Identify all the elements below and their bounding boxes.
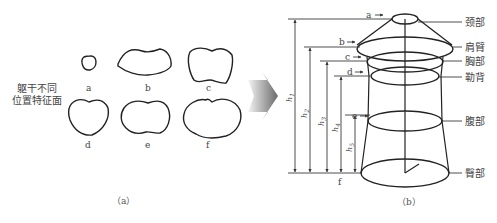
panel-b [288, 14, 462, 187]
body-part-labels: 颈部 肩臂 胸部 勒背 腹部 臀部 [465, 16, 485, 179]
caption-a: （a） [112, 196, 135, 206]
height-label-h5: h5 [345, 143, 355, 152]
body-part-shoulder-arm: 肩臂 [465, 41, 485, 53]
shape-label-e: e [145, 140, 150, 150]
cross-section-c [188, 48, 232, 83]
side-label-line2: 位置特征面 [12, 94, 62, 106]
body-part-back: 勒背 [465, 71, 485, 83]
level-marker-b: b [339, 37, 345, 47]
cross-section-a [82, 56, 96, 70]
cross-section-d [69, 100, 109, 135]
level-marker-f: f [338, 177, 342, 187]
level-marker-c: c [345, 52, 350, 62]
height-labels: h1 h2 h3 h4 h5 [285, 93, 355, 152]
shape-label-a: a [86, 83, 92, 93]
cross-section-b [118, 49, 171, 75]
level-marker-e: e [352, 111, 357, 121]
shape-label-b: b [145, 83, 151, 93]
height-label-h4: h4 [331, 123, 341, 132]
height-label-h2: h2 [300, 109, 310, 118]
level-marker-d: d [347, 67, 353, 77]
shape-label-f: f [206, 140, 210, 150]
body-part-chest: 胸部 [465, 55, 485, 67]
level-marker-a: a [366, 10, 372, 20]
height-label-h1: h1 [285, 93, 295, 102]
height-label-h3: h3 [317, 117, 327, 126]
cross-section-f [184, 99, 241, 138]
caption-b: （b） [397, 197, 421, 207]
cross-section-e [121, 101, 169, 133]
body-part-neck: 颈部 [465, 16, 485, 28]
body-part-hip: 臀部 [465, 167, 485, 179]
shape-label-d: d [85, 140, 91, 150]
body-part-abdomen: 腹部 [465, 115, 485, 127]
right-arrow-icon [248, 72, 278, 120]
panel-a: 躯干不同 位置特征面 a b c d e f （a） [12, 48, 241, 206]
side-label-line1: 躯干不同 [17, 82, 57, 94]
shape-label-c: c [206, 83, 211, 93]
